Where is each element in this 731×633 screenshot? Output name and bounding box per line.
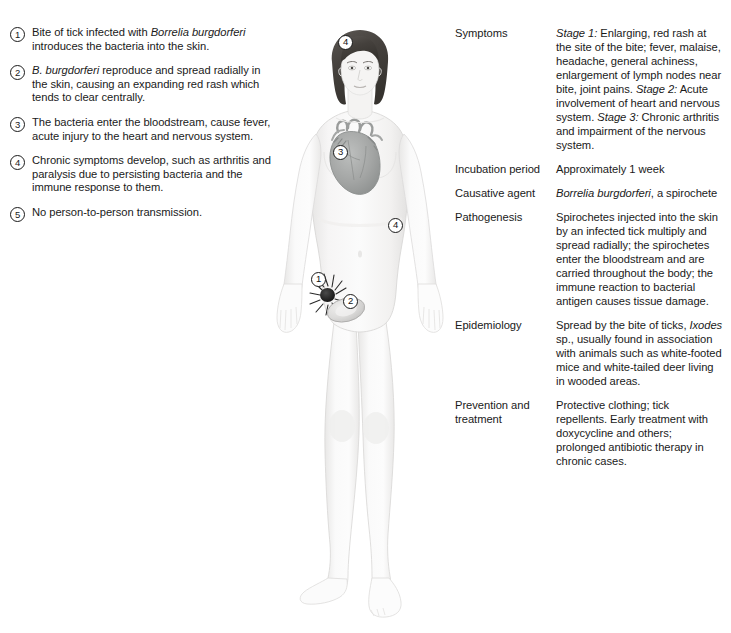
list-item: 4 Chronic symptoms develop, such as arth… xyxy=(10,154,278,195)
disease-info-table: Symptoms Stage 1: Enlarging, red rash at… xyxy=(455,26,723,478)
step-number-badge: 4 xyxy=(10,155,25,170)
list-item: 5 No person-to-person transmission. xyxy=(10,206,278,222)
step-text: B. burgdorferi reproduce and spread radi… xyxy=(32,64,278,105)
table-row: Epidemiology Spread by the bite of ticks… xyxy=(455,318,723,388)
list-item: 2 B. burgdorferi reproduce and spread ra… xyxy=(10,64,278,105)
hand-right-shape xyxy=(277,284,302,332)
pathogenesis-steps-list: 1 Bite of tick infected with Borrelia bu… xyxy=(10,26,278,233)
pupil-right xyxy=(351,67,354,70)
step-text: No person-to-person transmission. xyxy=(32,206,202,220)
list-item: 3 The bacteria enter the bloodstream, ca… xyxy=(10,116,278,143)
body-figure-svg xyxy=(262,22,452,618)
table-row: Causative agent Borrelia burgdorferi, a … xyxy=(455,186,723,200)
info-label-symptoms: Symptoms xyxy=(455,26,556,40)
info-label-prevention-and-treatment: Prevention and treatment xyxy=(455,398,556,426)
table-row: Prevention and treatment Protective clot… xyxy=(455,398,723,468)
figure-marker-2-rash: 2 xyxy=(343,294,358,309)
info-label-incubation-period: Incubation period xyxy=(455,162,556,176)
info-value-pathogenesis: Spirochetes injected into the skin by an… xyxy=(556,210,723,308)
info-label-causative-agent: Causative agent xyxy=(455,186,556,200)
leg-right-shape xyxy=(325,322,359,592)
table-row: Pathogenesis Spirochetes injected into t… xyxy=(455,210,723,308)
figure-body-group xyxy=(277,30,443,617)
figure-marker-4-head: 4 xyxy=(338,35,353,50)
pupil-left xyxy=(367,67,370,70)
info-value-incubation-period: Approximately 1 week xyxy=(556,162,723,176)
foot-left-shape xyxy=(369,578,401,617)
info-value-prevention-and-treatment: Protective clothing; tick repellents. Ea… xyxy=(556,398,723,468)
knee-left-shading xyxy=(363,412,389,444)
step-number-badge: 5 xyxy=(10,207,25,222)
navel xyxy=(358,251,362,258)
figure-marker-1-tick: 1 xyxy=(311,272,326,287)
info-value-epidemiology: Spread by the bite of ticks, Ixodes sp.,… xyxy=(556,318,723,388)
figure-marker-4-arm: 4 xyxy=(388,218,403,233)
foot-right-shape xyxy=(300,578,347,604)
step-text: Bite of tick infected with Borrelia burg… xyxy=(32,26,278,53)
list-item: 1 Bite of tick infected with Borrelia bu… xyxy=(10,26,278,53)
info-value-causative-agent: Borrelia burgdorferi, a spirochete xyxy=(556,186,723,200)
step-text: The bacteria enter the bloodstream, caus… xyxy=(32,116,278,143)
step-number-badge: 3 xyxy=(10,117,25,132)
step-text: Chronic symptoms develop, such as arthri… xyxy=(32,154,278,195)
figure-marker-3-heart: 3 xyxy=(333,145,348,160)
table-row: Incubation period Approximately 1 week xyxy=(455,162,723,176)
knee-right-shading xyxy=(329,410,355,442)
leg-left-shape xyxy=(358,322,394,593)
step-number-badge: 1 xyxy=(10,27,25,42)
table-row: Symptoms Stage 1: Enlarging, red rash at… xyxy=(455,26,723,152)
info-value-symptoms: Stage 1: Enlarging, red rash at the site… xyxy=(556,26,723,152)
info-label-epidemiology: Epidemiology xyxy=(455,318,556,332)
step-number-badge: 2 xyxy=(10,65,25,80)
hand-left-shape xyxy=(418,284,443,332)
tick-body xyxy=(320,288,335,302)
body-figure-illustration: 4 3 4 1 2 xyxy=(262,22,452,618)
info-label-pathogenesis: Pathogenesis xyxy=(455,210,556,224)
